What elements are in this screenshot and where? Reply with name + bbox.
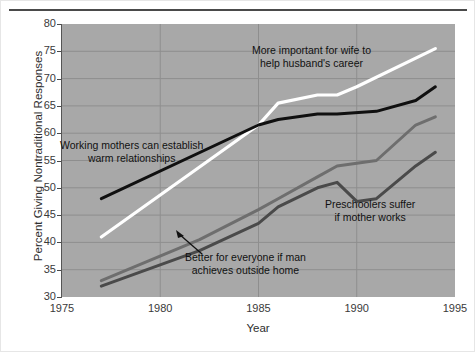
x-tick-label: 1985	[229, 303, 289, 314]
annotation-leader-arrow	[172, 228, 212, 256]
y-tick-label: 80	[26, 18, 56, 29]
annot-wife-career: More important for wife to help husband'…	[252, 44, 371, 69]
x-tick-label: 1975	[32, 303, 92, 314]
y-tick-mark	[57, 297, 61, 298]
x-axis-title: Year	[198, 322, 318, 334]
figure-top-rule	[9, 9, 467, 11]
y-tick-mark	[57, 188, 61, 189]
y-tick-mark	[57, 79, 61, 80]
y-tick-mark	[57, 242, 61, 243]
x-tick-label: 1980	[130, 303, 190, 314]
y-tick-mark	[57, 133, 61, 134]
y-tick-mark	[57, 215, 61, 216]
y-axis-title: Percent Giving Nontraditional Responses	[32, 46, 44, 266]
annot-working-mothers: Working mothers can establish warm relat…	[60, 139, 203, 164]
annot-preschoolers: Preschoolers suffer if mother works	[325, 198, 415, 223]
x-tick-label: 1995	[425, 303, 476, 314]
y-tick-mark	[57, 24, 61, 25]
y-tick-label: 30	[26, 291, 56, 302]
y-tick-mark	[57, 106, 61, 107]
y-tick-mark	[57, 270, 61, 271]
chart-figure: 3035404550556065707580 19751980198519901…	[0, 0, 476, 353]
x-tick-label: 1990	[327, 303, 387, 314]
y-tick-mark	[57, 51, 61, 52]
